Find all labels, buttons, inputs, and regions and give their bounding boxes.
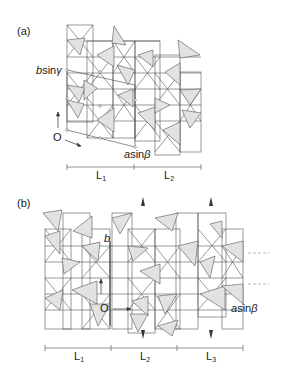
scale-segment-l1: L1 — [74, 350, 84, 363]
segment-sub: 2 — [170, 175, 174, 182]
panel-a: (a) bsinγ O asinβ L1 L2 — [0, 0, 281, 186]
panel-label-a: (a) — [17, 25, 30, 37]
b-axis-label: b — [104, 232, 110, 244]
origin-label-b: O — [100, 302, 109, 314]
beta-symbol: β — [144, 148, 150, 160]
sin-text: sin — [237, 302, 251, 314]
beta-symbol: β — [251, 302, 257, 314]
sin-text: sin — [42, 64, 56, 76]
polyhedral-structure-b — [0, 186, 281, 373]
b-sin-gamma-label: bsinγ — [36, 64, 62, 76]
segment-sub: 3 — [212, 356, 216, 363]
scale-segment-l2: L2 — [164, 169, 174, 182]
segment-sub: 1 — [80, 356, 84, 363]
panel-b: (b) b O asinβ L1 L2 L3 — [0, 186, 281, 373]
scale-segment-l2: L2 — [140, 350, 150, 363]
a-sin-beta-label: asinβ — [124, 148, 150, 160]
panel-label-b: (b) — [17, 197, 30, 209]
segment-sub: 2 — [146, 356, 150, 363]
a-sin-beta-label-b: asinβ — [231, 302, 257, 314]
segment-sub: 1 — [102, 175, 106, 182]
sin-text: sin — [130, 148, 144, 160]
scale-segment-l3: L3 — [206, 350, 216, 363]
scale-segment-l1: L1 — [96, 169, 106, 182]
origin-label-a: O — [53, 131, 62, 143]
gamma-symbol: γ — [56, 64, 62, 76]
